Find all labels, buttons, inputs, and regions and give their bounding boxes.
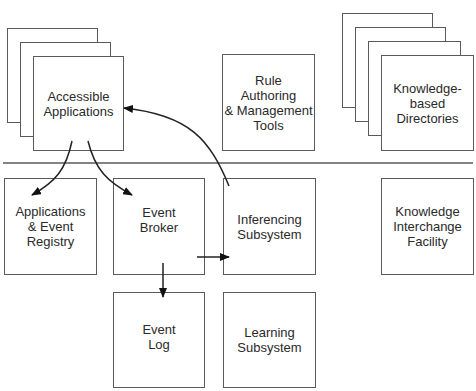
arrow-apps-to-registry xyxy=(32,141,72,195)
arrow-apps-to-broker xyxy=(88,141,132,195)
arrow-inferencing-to-apps xyxy=(124,108,229,186)
connector-layer xyxy=(0,0,476,391)
